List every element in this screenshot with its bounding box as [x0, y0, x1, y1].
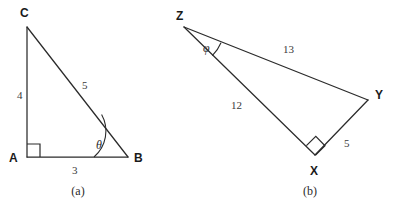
vertex-label-z: Z: [176, 9, 183, 23]
edge-a-cb: [27, 27, 128, 157]
side-label-zx: 12: [231, 99, 242, 111]
right-angle-marker-x: [306, 136, 325, 155]
vertex-label-c: C: [20, 6, 29, 20]
side-label-ac: 4: [17, 89, 23, 101]
vertex-label-x: X: [310, 164, 318, 178]
side-label-cb: 5: [82, 79, 88, 91]
angle-arc-phi: [212, 43, 221, 56]
caption-panel-b: (b): [303, 184, 317, 198]
caption-panel-a: (a): [71, 184, 84, 198]
right-angle-marker-a: [27, 144, 40, 157]
geometry-figure: C A B 4 5 3 θ (a) Z Y X: [0, 0, 396, 212]
side-label-xy: 5: [344, 137, 350, 149]
panel-a: C A B 4 5 3 θ (a): [9, 6, 143, 198]
panel-b: Z Y X 13 12 5 φ (b): [176, 9, 383, 198]
angle-label-theta: θ: [96, 138, 102, 152]
edge-b-zy: [184, 27, 368, 100]
angle-label-phi: φ: [203, 41, 210, 55]
figure-canvas: C A B 4 5 3 θ (a) Z Y X: [0, 0, 396, 212]
vertex-label-a: A: [9, 151, 18, 165]
edge-b-xy: [315, 100, 368, 155]
vertex-label-b: B: [134, 151, 143, 165]
vertex-label-y: Y: [375, 88, 383, 102]
side-label-ab: 3: [72, 164, 78, 176]
side-label-zy: 13: [283, 43, 295, 55]
